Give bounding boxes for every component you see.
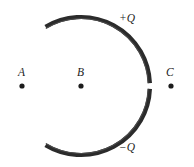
field-point-label-b: B <box>77 67 84 79</box>
field-point-dot-a <box>19 83 24 88</box>
positive-charge-label: +Q <box>119 13 135 25</box>
physics-figure: A B C +Q −Q <box>0 0 194 167</box>
field-point-dot-b <box>78 83 83 88</box>
charged-arc-upper-highlight <box>46 19 148 84</box>
field-point-label-c: C <box>166 67 174 79</box>
figure-canvas <box>0 0 194 167</box>
negative-charge-label: −Q <box>119 142 135 154</box>
charged-arc-upper-segment <box>46 17 150 83</box>
field-point-dot-c <box>168 83 173 88</box>
field-point-label-a: A <box>18 67 25 79</box>
